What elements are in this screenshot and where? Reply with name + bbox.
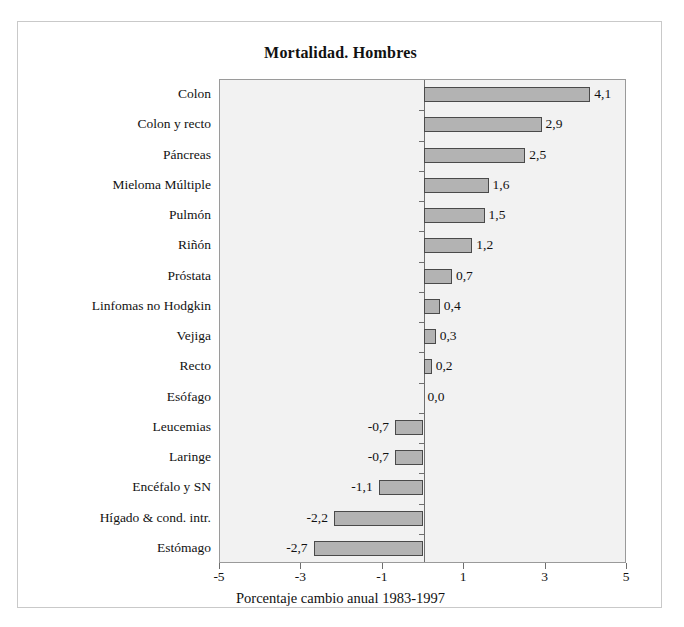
bar-row: -2,2 [220, 504, 625, 534]
y-axis-category-label: Próstata [38, 261, 211, 291]
bar-row: 1,2 [220, 231, 625, 261]
bar [379, 480, 424, 495]
bar-value-label: 0,4 [444, 296, 461, 315]
chart-title: Mortalidad. Hombres [18, 44, 663, 62]
x-axis-tick-label: 1 [460, 569, 467, 585]
y-axis-category-label: Riñón [38, 230, 211, 260]
bars-layer: 4,12,92,51,61,51,20,70,40,30,20,0-0,7-0,… [220, 80, 625, 562]
bar-row: 4,1 [220, 80, 625, 110]
bar-value-label: -2,2 [307, 508, 328, 527]
bar [395, 450, 423, 465]
y-axis-category-label: Estómago [38, 533, 211, 563]
x-axis-tick-label: -5 [213, 569, 224, 585]
x-axis-tick-label: -3 [295, 569, 306, 585]
x-axis-title: Porcentaje cambio anual 1983-1997 [18, 590, 663, 607]
bar-row: 0,2 [220, 352, 625, 382]
bar-value-label: 4,1 [594, 84, 611, 103]
y-axis-category-labels: ColonColon y rectoPáncreasMieloma Múltip… [38, 79, 211, 563]
y-axis-category-label: Encéfalo y SN [38, 472, 211, 502]
x-axis-tick-label: 3 [541, 569, 548, 585]
bar [314, 541, 424, 556]
bar-row: 0,7 [220, 262, 625, 292]
bar-row: 1,6 [220, 171, 625, 201]
bar-value-label: 1,5 [489, 205, 506, 224]
bar-value-label: 0,3 [440, 326, 457, 345]
bar-row: -0,7 [220, 443, 625, 473]
bar [334, 511, 424, 526]
bar-value-label: 1,6 [493, 175, 510, 194]
x-axis-tick-label: 5 [623, 569, 630, 585]
bar-row: -2,7 [220, 534, 625, 564]
bar-row: 2,5 [220, 141, 625, 171]
bar-row: 1,5 [220, 201, 625, 231]
x-axis-tick-label: -1 [376, 569, 387, 585]
y-axis-category-label: Linfomas no Hodgkin [38, 291, 211, 321]
y-axis-category-label: Páncreas [38, 140, 211, 170]
y-axis-category-label: Colon [38, 79, 211, 109]
x-axis-tick-labels: -5-3-1135 [219, 569, 626, 589]
bar-row: 0,4 [220, 292, 625, 322]
bar-value-label: -1,1 [351, 477, 372, 496]
bar-value-label: -0,7 [368, 447, 389, 466]
bar-value-label: 0,0 [428, 387, 445, 406]
bar [424, 178, 489, 193]
y-axis-category-label: Colon y recto [38, 109, 211, 139]
bar-value-label: 2,9 [546, 114, 563, 133]
bar [424, 208, 485, 223]
y-axis-category-label: Esófago [38, 382, 211, 412]
bar-value-label: 0,7 [456, 266, 473, 285]
bar [424, 87, 591, 102]
chart-figure: Mortalidad. Hombres ColonColon y rectoPá… [17, 21, 662, 608]
bar-row: 2,9 [220, 110, 625, 140]
bar-value-label: -2,7 [286, 538, 307, 557]
bar-row: -0,7 [220, 413, 625, 443]
bar [424, 329, 436, 344]
y-axis-category-label: Laringe [38, 442, 211, 472]
bar-row: -1,1 [220, 473, 625, 503]
bar [424, 148, 526, 163]
bar-value-label: 1,2 [476, 235, 493, 254]
bar-row: 0,0 [220, 383, 625, 413]
bar [424, 238, 473, 253]
bar [395, 420, 423, 435]
bar [424, 269, 452, 284]
bar-row: 0,3 [220, 322, 625, 352]
bar [424, 299, 440, 314]
y-axis-category-label: Mieloma Múltiple [38, 170, 211, 200]
y-axis-category-label: Pulmón [38, 200, 211, 230]
y-axis-category-label: Leucemias [38, 412, 211, 442]
bar-value-label: -0,7 [368, 417, 389, 436]
bar-value-label: 0,2 [436, 356, 453, 375]
y-axis-category-label: Vejiga [38, 321, 211, 351]
plot-area: 4,12,92,51,61,51,20,70,40,30,20,0-0,7-0,… [219, 79, 626, 563]
bar [424, 359, 432, 374]
y-axis-category-label: Hígado & cond. intr. [38, 503, 211, 533]
bar-value-label: 2,5 [529, 145, 546, 164]
bar [424, 117, 542, 132]
y-axis-category-label: Recto [38, 351, 211, 381]
